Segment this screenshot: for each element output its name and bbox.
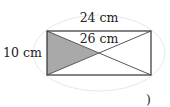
label-top-width: 24 cm (80, 10, 119, 25)
label-left-height: 10 cm (3, 45, 42, 60)
label-diagonal: 26 cm (80, 31, 119, 46)
rectangle-diagram: 24 cm 26 cm 10 cm ) (0, 0, 170, 107)
trailing-paren: ) (146, 92, 151, 107)
